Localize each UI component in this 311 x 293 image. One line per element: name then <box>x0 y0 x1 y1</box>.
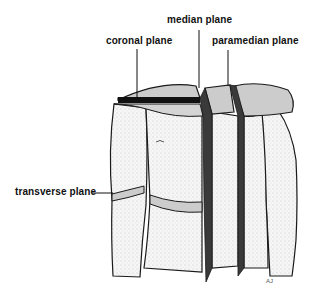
torso-middle <box>212 112 238 268</box>
median-plane-label: median plane <box>167 14 232 25</box>
transverse-plane-label: transverse plane <box>15 186 96 197</box>
coronal-plane-cut <box>118 97 200 103</box>
torso-left <box>144 108 202 272</box>
artist-mark: AJ <box>266 278 273 284</box>
coronal-plane-label: coronal plane <box>106 35 172 46</box>
paramedian-plane-label: paramedian plane <box>212 35 299 46</box>
